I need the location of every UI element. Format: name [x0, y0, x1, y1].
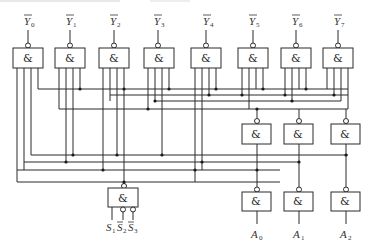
- svg-text:4: 4: [210, 21, 214, 29]
- gate-y5: &: [238, 43, 268, 68]
- svg-text:1: 1: [112, 227, 116, 235]
- svg-text:3: 3: [134, 227, 138, 235]
- buffer-gate-a1: &: [284, 119, 313, 188]
- svg-text:&: &: [109, 52, 119, 65]
- gate-y3: &: [144, 43, 174, 68]
- output-label-y5: Y 5: [249, 15, 260, 29]
- input-label-a1: A 1: [292, 228, 305, 242]
- buffer-gate-a0: &: [242, 119, 271, 188]
- svg-text:&: &: [333, 52, 343, 65]
- gate-y0: &: [13, 43, 43, 68]
- svg-text:&: &: [251, 128, 261, 141]
- gate-y4: &: [191, 43, 221, 68]
- svg-text:1: 1: [301, 234, 305, 242]
- svg-text:&: &: [293, 128, 303, 141]
- decoder-logic-diagram: Y 0 Y 1 Y 2 Y 3 Y 4 Y 5 Y: [0, 0, 376, 249]
- svg-text:&: &: [291, 52, 301, 65]
- svg-text:2: 2: [117, 21, 121, 29]
- enable-input-labels: S 1 S 2 S 3: [106, 221, 138, 235]
- output-label-y3: Y 3: [154, 15, 165, 29]
- svg-text:A: A: [250, 228, 258, 240]
- cropped-caption: [0, 0, 190, 2]
- buffer-gate-a2: &: [331, 119, 360, 188]
- svg-text:0: 0: [259, 234, 263, 242]
- gate-y6: &: [281, 43, 311, 68]
- svg-text:&: &: [118, 192, 128, 205]
- output-label-y6: Y 6: [292, 15, 303, 29]
- input-label-s2-bar: S 2: [117, 221, 127, 235]
- svg-text:5: 5: [256, 21, 260, 29]
- svg-text:0: 0: [31, 21, 35, 29]
- gate-y2: &: [99, 43, 129, 68]
- svg-text:1: 1: [73, 21, 77, 29]
- output-label-y7: Y 7: [334, 15, 345, 29]
- output-label-y2: Y 2: [110, 15, 121, 29]
- output-label-y0: Y 0: [24, 15, 35, 29]
- svg-text:&: &: [340, 128, 350, 141]
- input-label-a2: A 2: [339, 228, 352, 242]
- svg-text:2: 2: [348, 234, 352, 242]
- svg-text:A: A: [339, 228, 347, 240]
- output-gates: & & & & & & &: [13, 43, 353, 68]
- svg-text:2: 2: [123, 227, 127, 235]
- svg-text:&: &: [251, 195, 261, 208]
- gate-y1: &: [55, 43, 85, 68]
- input-gate-a1: &: [284, 187, 313, 224]
- input-gate-a0: &: [242, 187, 271, 224]
- output-stubs: [28, 30, 338, 43]
- svg-text:6: 6: [299, 21, 303, 29]
- output-label-y1: Y 1: [66, 15, 77, 29]
- svg-text:&: &: [23, 52, 33, 65]
- svg-text:7: 7: [341, 21, 345, 29]
- svg-text:&: &: [248, 52, 258, 65]
- input-gate-a2: &: [331, 187, 360, 224]
- output-labels: Y 0 Y 1 Y 2 Y 3 Y 4 Y 5 Y: [24, 15, 345, 29]
- svg-text:&: &: [293, 195, 303, 208]
- svg-text:A: A: [292, 228, 300, 240]
- gate-y7: &: [323, 43, 353, 68]
- svg-text:&: &: [154, 52, 164, 65]
- svg-text:&: &: [201, 52, 211, 65]
- svg-text:&: &: [340, 195, 350, 208]
- input-label-s3-bar: S 3: [128, 221, 138, 235]
- svg-text:&: &: [65, 52, 75, 65]
- output-label-y4: Y 4: [203, 15, 214, 29]
- input-label-s1: S 1: [106, 221, 116, 235]
- address-input-labels: A 0 A 1 A 2: [250, 228, 352, 242]
- enable-gate: &: [108, 182, 138, 220]
- address-buffer-gates: & & &: [242, 109, 360, 187]
- input-label-a0: A 0: [250, 228, 263, 242]
- svg-text:3: 3: [161, 21, 165, 29]
- address-input-gates: & & &: [242, 187, 360, 224]
